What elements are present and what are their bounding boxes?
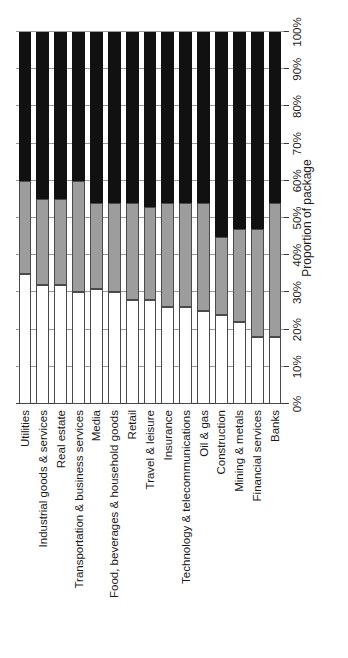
category-label: Utilities <box>18 410 31 447</box>
category-label: Real estate <box>54 410 67 468</box>
bar-segment[interactable] <box>54 199 67 285</box>
axis-tick <box>284 329 289 330</box>
bar-row[interactable]: Real estate <box>54 32 67 404</box>
category-label: Travel & leisure <box>143 410 156 489</box>
chart-rotation-wrapper: 0%10%20%30%40%50%60%70%80%90%100% Utilit… <box>0 0 348 658</box>
bar-segment[interactable] <box>215 32 228 237</box>
bar-segment[interactable] <box>90 289 103 404</box>
bar-segment[interactable] <box>161 203 174 307</box>
bar-segment[interactable] <box>90 203 103 289</box>
category-label: Technology & telecommunications <box>179 410 192 584</box>
bar-segment[interactable] <box>36 32 49 199</box>
category-label: Industrial goods & services <box>36 410 49 547</box>
category-label: Insurance <box>161 410 174 461</box>
bar-row[interactable]: Banks <box>269 32 282 404</box>
bar-row[interactable]: Construction <box>215 32 228 404</box>
bar-segment[interactable] <box>126 203 139 300</box>
bar-row[interactable]: Financial services <box>251 32 264 404</box>
value-axis-title: Proportion of package <box>300 32 314 404</box>
bar-segment[interactable] <box>197 203 210 311</box>
axis-tick <box>284 366 289 367</box>
bar-segment[interactable] <box>179 32 192 203</box>
plot-area: 0%10%20%30%40%50%60%70%80%90%100% Utilit… <box>16 32 284 404</box>
bar-segment[interactable] <box>36 285 49 404</box>
category-label: Food, beverages & household goods <box>108 410 121 598</box>
bar-segment[interactable] <box>215 315 228 404</box>
bar-segment[interactable] <box>144 207 157 300</box>
axis-tick <box>284 68 289 69</box>
bar-segment[interactable] <box>251 229 264 337</box>
axis-tick <box>284 403 289 404</box>
bar-segment[interactable] <box>179 203 192 307</box>
bar-segment[interactable] <box>126 300 139 404</box>
bar-segment[interactable] <box>19 181 32 274</box>
category-label: Banks <box>269 410 282 442</box>
bar-segment[interactable] <box>54 32 67 199</box>
bar-row[interactable]: Mining & metals <box>233 32 246 404</box>
category-label: Oil & gas <box>197 410 210 457</box>
bar-segment[interactable] <box>215 237 228 315</box>
axis-tick <box>284 217 289 218</box>
category-label: Transportation & business services <box>72 410 85 589</box>
bar-segment[interactable] <box>19 274 32 404</box>
category-label: Construction <box>215 410 228 475</box>
bar-segment[interactable] <box>197 311 210 404</box>
bar-row[interactable]: Insurance <box>161 32 174 404</box>
bar-row[interactable]: Travel & leisure <box>144 32 157 404</box>
bar-segment[interactable] <box>54 285 67 404</box>
axis-tick <box>284 143 289 144</box>
axis-tick <box>284 105 289 106</box>
bar-segment[interactable] <box>72 181 85 293</box>
bar-segment[interactable] <box>126 32 139 203</box>
bar-segment[interactable] <box>197 32 210 203</box>
bar-segment[interactable] <box>179 307 192 404</box>
bar-segment[interactable] <box>161 32 174 203</box>
category-label: Media <box>90 410 103 441</box>
axis-tick <box>284 291 289 292</box>
bar-row[interactable]: Oil & gas <box>197 32 210 404</box>
bar-segment[interactable] <box>269 203 282 337</box>
bar-row[interactable]: Retail <box>126 32 139 404</box>
axis-tick <box>284 254 289 255</box>
bar-segment[interactable] <box>251 337 264 404</box>
bar-segment[interactable] <box>90 32 103 203</box>
bar-segment[interactable] <box>144 32 157 207</box>
bar-segment[interactable] <box>144 300 157 404</box>
category-label: Retail <box>126 410 139 439</box>
bar-row[interactable]: Utilities <box>19 32 32 404</box>
bar-segment[interactable] <box>233 32 246 229</box>
bar-row[interactable]: Technology & telecommunications <box>179 32 192 404</box>
bar-segment[interactable] <box>108 292 121 404</box>
bar-segment[interactable] <box>233 229 246 322</box>
stacked-bar-chart: 0%10%20%30%40%50%60%70%80%90%100% Utilit… <box>0 0 348 658</box>
category-label: Mining & metals <box>233 410 246 492</box>
bar-segment[interactable] <box>108 32 121 203</box>
bar-segment[interactable] <box>269 337 282 404</box>
bar-segment[interactable] <box>251 32 264 229</box>
bar-row[interactable]: Transportation & business services <box>72 32 85 404</box>
axis-tick <box>284 31 289 32</box>
bar-segment[interactable] <box>72 32 85 181</box>
bar-segment[interactable] <box>233 322 246 404</box>
axis-tick <box>284 180 289 181</box>
bar-segment[interactable] <box>161 307 174 404</box>
bar-segment[interactable] <box>36 199 49 285</box>
category-label: Financial services <box>251 410 264 501</box>
bar-segment[interactable] <box>19 32 32 181</box>
chart-figure: 0%10%20%30%40%50%60%70%80%90%100% Utilit… <box>0 0 348 658</box>
bar-segment[interactable] <box>269 32 282 203</box>
bar-row[interactable]: Industrial goods & services <box>36 32 49 404</box>
bar-segment[interactable] <box>72 292 85 404</box>
bar-segment[interactable] <box>108 203 121 292</box>
bar-row[interactable]: Media <box>90 32 103 404</box>
bar-row[interactable]: Food, beverages & household goods <box>108 32 121 404</box>
